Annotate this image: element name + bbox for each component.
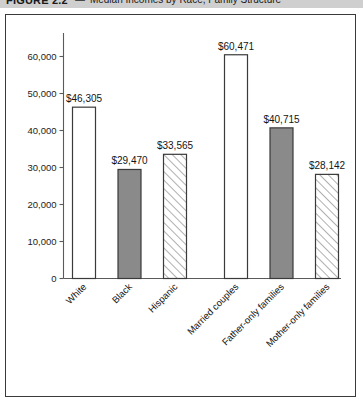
figure-header-band: FIGURE 2.2 — Median Incomes by Race, Fam… [0,0,363,8]
figure-title: Median Incomes by Race, Family Structure [90,0,281,5]
figure-frame [5,14,356,397]
figure-number: FIGURE 2.2 [6,0,68,6]
figure-title-dash: — [75,0,85,5]
